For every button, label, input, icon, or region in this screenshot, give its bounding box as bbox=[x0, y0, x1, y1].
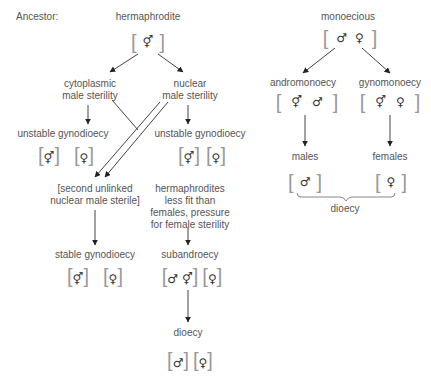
unstable-left-symbols: [⚥] [♀] bbox=[26, 145, 106, 165]
monoecious-label: monoecious bbox=[298, 11, 398, 23]
subandroecy-label: subandroecy bbox=[140, 249, 240, 261]
hermaphrodite-symbols: [⚥] bbox=[136, 32, 160, 52]
male-symbol-icon: ♂ bbox=[300, 175, 311, 189]
dioecy-label: dioecy bbox=[148, 327, 228, 339]
dioecy-symbols: [♂] [♀] bbox=[155, 350, 225, 370]
hermaphrodite-symbol-icon: ⚥ bbox=[143, 35, 154, 49]
pressure-label: hermaphrodites less fit than females, pr… bbox=[140, 183, 240, 231]
males-symbols: [♂] bbox=[294, 172, 316, 192]
ancestor-label: Ancestor: bbox=[16, 11, 58, 23]
second-unlinked-label: [second unlinked nuclear male sterile] bbox=[40, 183, 150, 207]
andromonoecy-label: andromonoecy bbox=[258, 77, 348, 89]
gynomonoecy-label: gynomonoecy bbox=[345, 77, 431, 89]
cytoplasmic-label: cytoplasmic male sterility bbox=[40, 78, 140, 102]
hermaphrodite-symbol-icon: ⚥ bbox=[182, 272, 193, 286]
hermaphrodite-symbol-icon: ⚥ bbox=[291, 95, 302, 109]
unstable-gynodioecy-left-label: unstable gynodioecy bbox=[8, 128, 118, 140]
male-symbol-icon: ♂ bbox=[167, 272, 178, 286]
monoecious-symbols: [♂♀] bbox=[325, 28, 375, 48]
female-symbol-icon: ♀ bbox=[396, 95, 405, 109]
unstable-gynodioecy-right-label: unstable gynodioecy bbox=[145, 128, 255, 140]
male-symbol-icon: ♂ bbox=[336, 31, 347, 45]
males-label: males bbox=[280, 151, 330, 163]
hermaphrodite-symbol-icon: ⚥ bbox=[375, 95, 386, 109]
female-symbol-icon: ♀ bbox=[355, 31, 364, 45]
unstable-right-symbols: [⚥] [♀] bbox=[162, 145, 242, 165]
male-symbol-icon: ♂ bbox=[173, 356, 184, 370]
hermaphrodite-symbol-icon: ⚥ bbox=[73, 272, 84, 286]
females-symbols: [♀] bbox=[380, 172, 402, 192]
stable-symbols: [⚥] [♀] bbox=[55, 266, 135, 286]
nuclear-label: nuclear male sterility bbox=[140, 78, 240, 102]
stable-gynodioecy-label: stable gynodioecy bbox=[45, 249, 145, 261]
subandroecy-symbols: [♂ ⚥] [♀] bbox=[150, 266, 234, 286]
females-label: females bbox=[365, 151, 415, 163]
gynomonoecy-symbols: [⚥♀] bbox=[368, 92, 412, 112]
andromonoecy-symbols: [⚥♂] bbox=[282, 92, 332, 112]
dioecy-brace-label: dioecy bbox=[320, 203, 370, 215]
hermaphrodite-label: hermaphrodite bbox=[98, 11, 198, 23]
female-symbol-icon: ♀ bbox=[387, 175, 396, 189]
hermaphrodite-symbol-icon: ⚥ bbox=[44, 151, 55, 165]
female-symbol-icon: ♀ bbox=[208, 272, 217, 286]
male-symbol-icon: ♂ bbox=[312, 95, 323, 109]
hermaphrodite-symbol-icon: ⚥ bbox=[184, 151, 195, 165]
